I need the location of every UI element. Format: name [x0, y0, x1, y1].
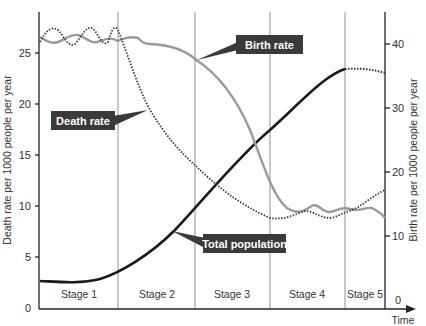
svg-text:0: 0	[25, 302, 31, 314]
right-axis-ticks: 40 30 20 10 0	[392, 38, 404, 306]
svg-text:5: 5	[25, 251, 31, 263]
total-population-callout: Total population	[172, 231, 287, 253]
total-population-projection	[345, 69, 385, 73]
x-axis	[39, 305, 416, 313]
svg-text:Stage 3: Stage 3	[214, 288, 250, 300]
right-axis-label: Birth rate per 1000 people per year	[407, 78, 419, 241]
svg-text:Death rate: Death rate	[56, 115, 110, 127]
x-axis-label: Time	[392, 314, 415, 326]
svg-text:40: 40	[392, 38, 404, 50]
svg-text:Stage 2: Stage 2	[139, 288, 175, 300]
svg-text:15: 15	[19, 149, 31, 161]
svg-text:30: 30	[392, 102, 404, 114]
left-axis-label: Death rate per 1000 people per year	[1, 75, 13, 245]
svg-text:10: 10	[392, 230, 404, 242]
svg-text:20: 20	[392, 166, 404, 178]
svg-text:Stage 1: Stage 1	[61, 288, 97, 300]
demographic-transition-chart: 25 20 15 10 5 0 Death rate per 1000 peop…	[0, 0, 426, 326]
svg-text:Stage 5: Stage 5	[347, 288, 383, 300]
left-axis-ticks: 25 20 15 10 5 0	[19, 47, 31, 314]
birth-rate-callout: Birth rate	[197, 35, 303, 60]
stage-dividers	[118, 12, 345, 309]
svg-text:Birth rate: Birth rate	[245, 39, 294, 51]
left-axis	[35, 12, 39, 309]
stage-labels: Stage 1 Stage 2 Stage 3 Stage 4 Stage 5	[61, 288, 383, 300]
death-rate-callout: Death rate	[51, 110, 148, 130]
svg-text:0: 0	[395, 294, 401, 306]
right-axis	[385, 12, 390, 309]
svg-text:25: 25	[19, 47, 31, 59]
svg-text:Stage 4: Stage 4	[289, 288, 325, 300]
total-population-line	[40, 69, 345, 282]
svg-text:20: 20	[19, 98, 31, 110]
svg-text:Total population: Total population	[202, 238, 287, 250]
svg-text:10: 10	[19, 200, 31, 212]
